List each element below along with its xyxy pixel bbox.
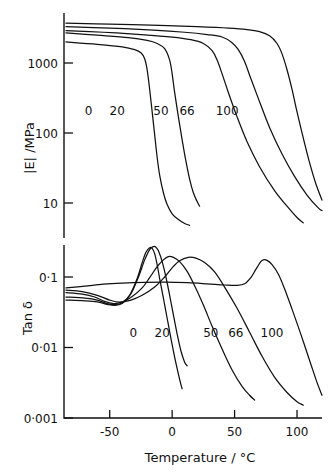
- y-tick-label: 0·001: [24, 412, 58, 426]
- tandelta-curve-labels: 0205066100: [130, 326, 284, 340]
- data-curve-66: [66, 27, 322, 211]
- curve-label-50: 50: [153, 104, 168, 118]
- curve-label-20: 20: [110, 104, 125, 118]
- curve-label-100: 100: [216, 104, 239, 118]
- tandelta-axis-title: Tan δ: [20, 301, 35, 336]
- data-curve-50: [66, 31, 303, 223]
- dma-figure: 100010010 0205066100 |E| /MPa 0·10·010·0…: [0, 0, 334, 476]
- x-axis-ticks: [110, 410, 297, 418]
- data-curve-100: [66, 260, 322, 396]
- modulus-curve-labels: 0205066100: [85, 104, 239, 118]
- curve-label-66: 66: [228, 326, 243, 340]
- curve-label-50: 50: [203, 326, 218, 340]
- tandelta-panel: 0·10·010·001 -50050100 0205066100 Tan δ …: [20, 245, 322, 465]
- x-tick-label: -50: [100, 425, 120, 439]
- x-tick-label: 0: [168, 425, 176, 439]
- tandelta-y-tick-labels: 0·10·010·001: [24, 271, 58, 426]
- x-axis-title: Temperature / °C: [144, 450, 256, 465]
- y-tick-label: 0·1: [39, 271, 58, 285]
- modulus-y-ticks: [64, 63, 73, 203]
- data-curve-20: [66, 33, 200, 206]
- tandelta-y-ticks: [64, 277, 73, 418]
- x-tick-label: 100: [286, 425, 309, 439]
- curve-label-20: 20: [155, 326, 170, 340]
- y-tick-label: 1000: [27, 57, 58, 71]
- x-tick-label: 50: [227, 425, 242, 439]
- curve-label-100: 100: [261, 326, 284, 340]
- y-tick-label: 0·01: [31, 341, 58, 355]
- curve-label-0: 0: [130, 326, 138, 340]
- curve-label-0: 0: [85, 104, 93, 118]
- tandelta-curves: [66, 246, 322, 405]
- x-axis-tick-labels: -50050100: [100, 425, 309, 439]
- modulus-panel: 100010010 0205066100 |E| /MPa: [22, 13, 322, 238]
- y-tick-label: 100: [35, 127, 58, 141]
- data-curve-0: [66, 247, 182, 388]
- modulus-axis-title: |E| /MPa: [22, 122, 37, 174]
- dma-chart-svg: 100010010 0205066100 |E| /MPa 0·10·010·0…: [0, 0, 334, 476]
- y-tick-label: 10: [43, 197, 58, 211]
- modulus-curves: [66, 23, 322, 225]
- data-curve-20: [66, 246, 187, 365]
- curve-label-66: 66: [179, 104, 194, 118]
